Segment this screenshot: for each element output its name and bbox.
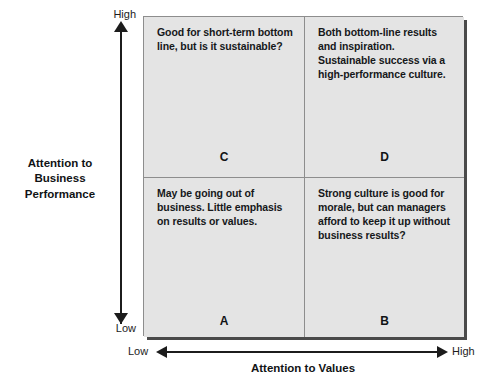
x-axis-line	[167, 351, 439, 353]
y-axis-title-line-3: Performance	[8, 187, 112, 202]
quadrant-a-text: May be going out of business. Little emp…	[157, 187, 295, 229]
quadrant-b-letter: B	[305, 314, 464, 328]
x-axis-high-label: High	[452, 345, 475, 357]
quadrant-c-letter: C	[144, 150, 304, 164]
quadrant-c[interactable]: Good for short-term bottom line, but is …	[144, 17, 304, 177]
x-axis-low-label: Low	[128, 345, 148, 357]
x-axis-title: Attention to Values	[143, 362, 463, 374]
quadrant-d-text: Both bottom-line results and inspiration…	[318, 26, 455, 81]
quadrant-b[interactable]: Strong culture is good for morale, but c…	[304, 177, 464, 337]
quadrant-d[interactable]: Both bottom-line results and inspiration…	[304, 17, 464, 177]
diagram-canvas: High Low Attention to Business Performan…	[0, 0, 486, 378]
y-axis-title-line-1: Attention to	[8, 156, 112, 171]
y-axis-title-line-2: Business	[8, 171, 112, 186]
quadrant-c-text: Good for short-term bottom line, but is …	[157, 26, 295, 54]
quadrant-b-text: Strong culture is good for morale, but c…	[318, 187, 455, 242]
y-axis-low-label: Low	[84, 322, 136, 334]
x-axis-left-arrow-icon	[156, 346, 167, 358]
quadrant-a-letter: A	[144, 314, 304, 328]
y-axis-title: Attention to Business Performance	[8, 156, 112, 202]
quadrant-d-letter: D	[305, 150, 464, 164]
y-axis-high-label: High	[84, 8, 136, 20]
quadrant-a[interactable]: May be going out of business. Little emp…	[144, 177, 304, 337]
matrix-box: Good for short-term bottom line, but is …	[143, 16, 463, 336]
y-axis-line	[120, 28, 122, 324]
x-axis-right-arrow-icon	[437, 346, 448, 358]
